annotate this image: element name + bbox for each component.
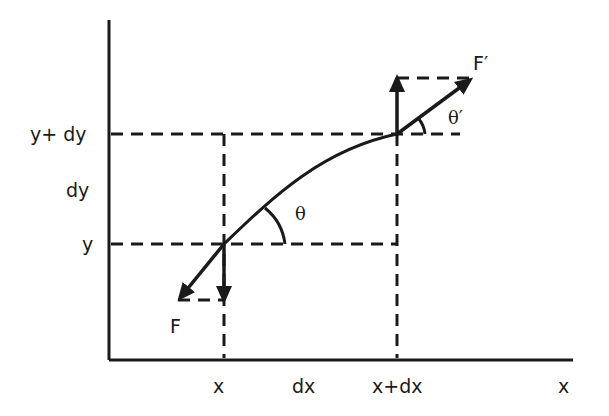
force-f-prime-label: F′ [473, 52, 488, 74]
axes [109, 20, 573, 360]
y-tick-y: y [82, 233, 93, 255]
angle-theta-prime-label: θ′ [448, 107, 463, 128]
y-tick-dy: dy [66, 179, 89, 201]
force-vectors [180, 78, 470, 300]
y-tick-y-plus-dy: y+ dy [30, 123, 87, 145]
x-axis-label: x [558, 375, 569, 397]
string-element-diagram: y+ dy dy y x dx x+dx x F F′ θ θ′ [0, 0, 609, 416]
x-tick-x: x [213, 375, 224, 397]
force-f-vector [180, 244, 224, 298]
angle-theta-arc [265, 208, 285, 244]
string-curve [224, 134, 397, 244]
angle-theta-prime-arc [418, 118, 425, 134]
x-tick-dx: dx [292, 375, 315, 397]
angle-theta-label: θ [295, 203, 306, 224]
x-tick-x-plus-dx: x+dx [372, 375, 422, 397]
force-f-label: F [170, 315, 181, 337]
